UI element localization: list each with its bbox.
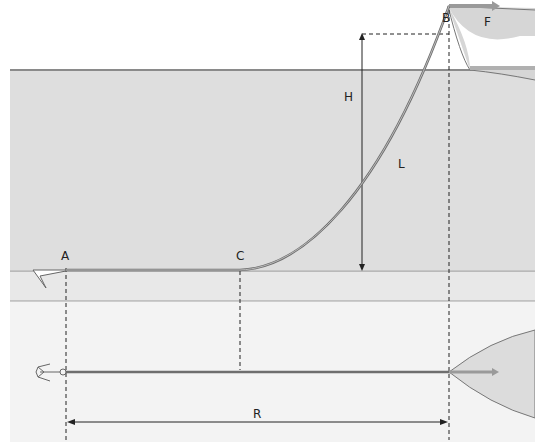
label-L: L (398, 157, 405, 171)
label-C: C (236, 249, 244, 263)
diagram-canvas: A C B F H L R (0, 0, 535, 448)
seabed-region (10, 271, 535, 301)
label-A: A (61, 249, 70, 263)
label-B: B (442, 11, 450, 25)
sea-region (10, 70, 535, 270)
label-F: F (484, 15, 491, 29)
catenary-diagram: A C B F H L R (0, 0, 535, 448)
waterline-stripe (470, 66, 535, 70)
label-R: R (253, 407, 261, 421)
label-H: H (344, 90, 353, 104)
